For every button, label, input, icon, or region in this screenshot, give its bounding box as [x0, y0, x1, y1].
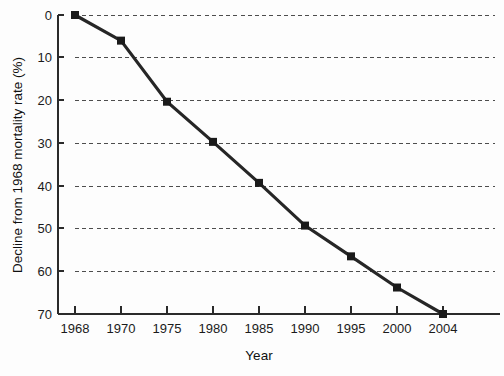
x-tick-label-1985: 1985 — [245, 321, 274, 336]
x-tick-label-1968: 1968 — [61, 321, 90, 336]
x-tick-label-1995: 1995 — [337, 321, 366, 336]
y-tick-label-0: 0 — [45, 8, 52, 23]
x-tick-label-2004: 2004 — [429, 321, 458, 336]
y-tick-marks-group — [58, 15, 64, 314]
x-tick-label-1990: 1990 — [291, 321, 320, 336]
x-tick-label-1970: 1970 — [107, 321, 136, 336]
data-point-marker — [71, 11, 79, 19]
y-tick-label-30: 30 — [38, 136, 52, 151]
x-tick-label-1980: 1980 — [199, 321, 228, 336]
y-tick-label-60: 60 — [38, 264, 52, 279]
data-point-marker — [439, 310, 447, 318]
y-tick-label-10: 10 — [38, 50, 52, 65]
y-tick-labels-group: 0 10 20 30 40 50 60 70 — [38, 8, 52, 322]
series-line-decline — [75, 15, 443, 314]
mortality-decline-line-chart: 0 10 20 30 40 50 60 70 1968 1970 1975 19… — [0, 0, 504, 376]
gridlines-group — [75, 15, 495, 271]
y-tick-label-50: 50 — [38, 221, 52, 236]
x-axis-title: Year — [245, 348, 273, 363]
data-point-marker — [393, 284, 401, 292]
x-tick-label-1975: 1975 — [153, 321, 182, 336]
data-point-marker — [255, 179, 263, 187]
axes-group — [58, 15, 500, 314]
chart-canvas: 0 10 20 30 40 50 60 70 1968 1970 1975 19… — [0, 0, 504, 376]
data-point-marker — [117, 37, 125, 45]
x-tick-label-2000: 2000 — [383, 321, 412, 336]
data-point-marker — [301, 222, 309, 230]
y-tick-label-40: 40 — [38, 179, 52, 194]
x-tick-marks-group — [75, 306, 443, 314]
y-axis-title: Decline from 1968 mortality rate (%) — [10, 57, 25, 273]
y-tick-label-70: 70 — [38, 307, 52, 322]
data-point-marker — [347, 252, 355, 260]
y-tick-label-20: 20 — [38, 93, 52, 108]
data-point-marker — [209, 138, 217, 146]
x-tick-labels-group: 1968 1970 1975 1980 1985 1990 1995 2000 … — [61, 321, 458, 336]
data-point-marker — [163, 98, 171, 106]
